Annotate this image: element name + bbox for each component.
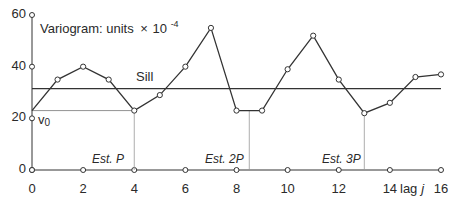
data-point-marker xyxy=(311,33,316,38)
data-point-marker xyxy=(157,92,162,97)
data-point-marker xyxy=(81,64,86,69)
y-tick-marker xyxy=(30,116,35,121)
data-point-marker xyxy=(285,67,290,72)
est-p-label: Est. P xyxy=(92,152,124,166)
data-point-marker xyxy=(259,108,264,113)
x-tick-label: 8 xyxy=(233,181,240,196)
x-tick-marker xyxy=(30,168,35,173)
y-tick-marker xyxy=(30,13,35,18)
est-3p-label: Est. 3P xyxy=(322,152,361,166)
x-tick-marker xyxy=(183,168,188,173)
x-tick-marker xyxy=(234,168,239,173)
data-point-marker xyxy=(208,25,213,30)
x-tick-label: 14 xyxy=(383,181,397,196)
est-2p-label: Est. 2P xyxy=(205,152,244,166)
x-tick-label: 2 xyxy=(80,181,87,196)
y-tick-marker xyxy=(30,64,35,69)
x-tick-label: 12 xyxy=(332,181,346,196)
variogram-chart: 02040600246810121416 Variogram: units × … xyxy=(0,0,460,206)
x-tick-marker xyxy=(285,168,290,173)
x-tick-marker xyxy=(336,168,341,173)
x-axis-label: lagj xyxy=(400,181,425,196)
variogram-line xyxy=(32,28,441,113)
y-tick-label: 60 xyxy=(12,6,26,21)
x-tick-label: 0 xyxy=(28,181,35,196)
data-point-marker xyxy=(183,64,188,69)
data-point-marker xyxy=(55,77,60,82)
data-series xyxy=(32,25,444,115)
labels: Variogram: units × 10 -4 Sill v0 Est. P … xyxy=(38,19,425,196)
data-point-marker xyxy=(413,74,418,79)
x-tick-label: 16 xyxy=(434,181,448,196)
sill-label: Sill xyxy=(136,69,153,84)
data-point-marker xyxy=(387,100,392,105)
data-point-marker xyxy=(106,77,111,82)
x-tick-label: 6 xyxy=(182,181,189,196)
x-tick-label: 10 xyxy=(280,181,294,196)
data-point-marker xyxy=(336,77,341,82)
y-tick-label: 20 xyxy=(12,109,26,124)
x-tick-marker xyxy=(81,168,86,173)
y-tick-label: 0 xyxy=(19,161,26,176)
data-point-marker xyxy=(234,108,239,113)
chart-title: Variogram: units × 10 -4 xyxy=(40,19,179,36)
data-point-marker xyxy=(132,108,137,113)
x-tick-label: 4 xyxy=(131,181,138,196)
data-point-marker xyxy=(362,111,367,116)
x-tick-marker xyxy=(439,168,444,173)
x-tick-marker xyxy=(387,168,392,173)
data-point-marker xyxy=(438,72,443,77)
y-tick-label: 40 xyxy=(12,58,26,73)
v0-label: v0 xyxy=(38,112,51,128)
